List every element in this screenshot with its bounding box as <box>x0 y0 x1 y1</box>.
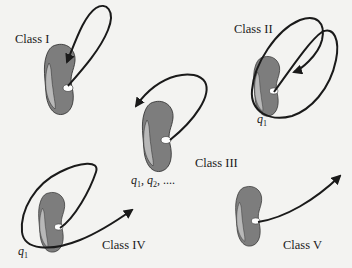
class-i-trajectory <box>67 6 111 86</box>
class-v-cell <box>236 186 262 246</box>
class-iii-q-sequence-label: q1, q2, .... <box>131 173 175 189</box>
class-iii-label: Class III <box>195 156 238 171</box>
class-iv-q1-label: q1 <box>18 244 28 260</box>
class-iv-cell <box>39 192 65 252</box>
class-iv-trajectory <box>22 164 132 248</box>
class-ii-label: Class II <box>234 22 273 37</box>
class-iii-cell <box>142 101 173 171</box>
class-i-label: Class I <box>15 32 49 47</box>
class-v-trajectory <box>258 176 340 222</box>
class-v-label: Class V <box>283 238 322 253</box>
class-iii-nucleus <box>161 137 171 144</box>
cell-trajectory-classes-figure: Class I Class II q1 Class III q1, q2, ..… <box>0 0 352 268</box>
diagram-canvas <box>0 0 352 268</box>
class-iv-label: Class IV <box>102 238 145 253</box>
class-ii-q1-label: q1 <box>257 112 267 128</box>
